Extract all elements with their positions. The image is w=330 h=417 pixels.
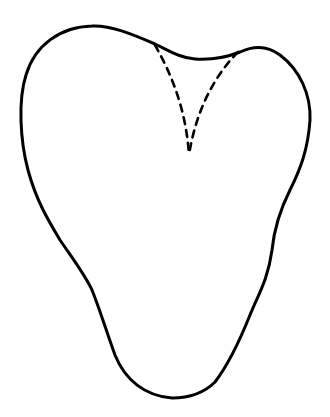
diagram-canvas: tooth outline [0, 0, 330, 417]
tooth-outline [21, 26, 310, 398]
dashed-line-right [189, 52, 238, 155]
tooth-drawing [0, 0, 330, 417]
dashed-line-left [155, 45, 189, 155]
